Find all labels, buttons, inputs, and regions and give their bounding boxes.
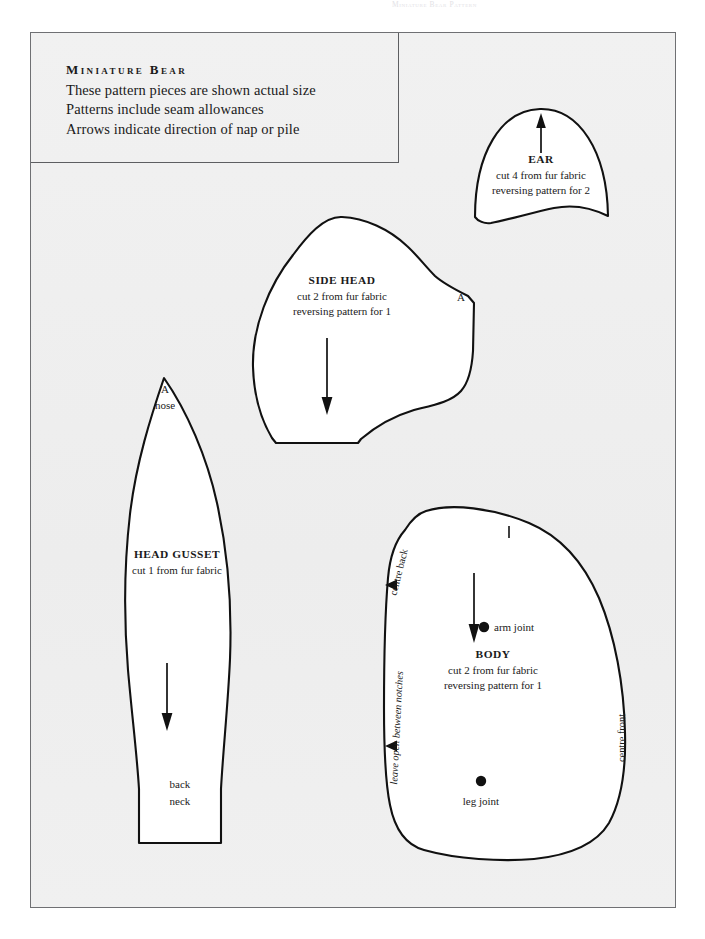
side-head-cut-line: cut 2 from fur fabric — [297, 290, 387, 302]
side-head-outline — [253, 217, 474, 443]
pattern-piece-body: arm joint leg joint BODY cut 2 from fur … — [384, 507, 627, 860]
ear-name: EAR — [528, 153, 554, 165]
head-gusset-outline — [125, 378, 230, 843]
body-name: BODY — [476, 648, 511, 660]
body-reverse-line: reversing pattern for 1 — [444, 679, 542, 691]
running-header: Miniature Bear Pattern — [0, 0, 705, 9]
pattern-piece-head-gusset: A nose HEAD GUSSET cut 1 from fur fabric… — [125, 378, 230, 843]
head-gusset-back-label: back — [170, 778, 191, 790]
pattern-piece-ear: EAR cut 4 from fur fabric reversing patt… — [475, 109, 608, 223]
body-arm-joint-label: arm joint — [494, 621, 534, 633]
body-cut-line: cut 2 from fur fabric — [448, 664, 538, 676]
side-head-match-point-a: A — [457, 291, 465, 303]
pattern-pieces-layer: EAR cut 4 from fur fabric reversing patt… — [31, 33, 677, 909]
side-head-name: SIDE HEAD — [309, 274, 376, 286]
head-gusset-cut-line: cut 1 from fur fabric — [132, 564, 222, 576]
head-gusset-nose-label: nose — [155, 399, 175, 411]
head-gusset-name: HEAD GUSSET — [134, 548, 220, 560]
ear-reverse-line: reversing pattern for 2 — [492, 184, 590, 196]
head-gusset-neck-label: neck — [170, 795, 191, 807]
head-gusset-match-point-a: A — [161, 383, 169, 395]
ear-cut-line: cut 4 from fur fabric — [496, 169, 586, 181]
body-leg-joint-label: leg joint — [463, 795, 499, 807]
body-arm-joint-dot — [479, 622, 489, 632]
body-centre-front-label: centre front — [616, 714, 627, 762]
pattern-piece-side-head: SIDE HEAD cut 2 from fur fabric reversin… — [253, 217, 474, 443]
side-head-reverse-line: reversing pattern for 1 — [293, 305, 391, 317]
body-leg-joint-dot — [476, 776, 486, 786]
running-header-text: Miniature Bear Pattern — [392, 0, 477, 9]
pattern-sheet: Miniature Bear These pattern pieces are … — [30, 32, 676, 908]
